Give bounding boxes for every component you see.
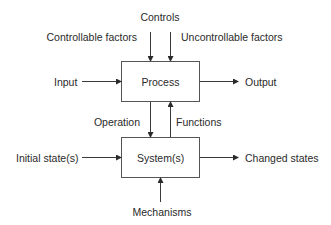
- operation-label: Operation: [94, 116, 140, 128]
- mechanisms-label: Mechanisms: [133, 206, 192, 218]
- output-label: Output: [245, 76, 277, 88]
- input-label: Input: [54, 76, 77, 88]
- controls-label: Controls: [140, 11, 179, 23]
- system-label: System(s): [137, 152, 184, 164]
- process-label: Process: [142, 76, 180, 88]
- controllable-factors-label: Controllable factors: [47, 31, 137, 43]
- process-system-diagram: Controls Controllable factors Uncontroll…: [0, 0, 331, 225]
- uncontrollable-factors-label: Uncontrollable factors: [181, 31, 283, 43]
- functions-label: Functions: [176, 116, 222, 128]
- initial-states-label: Initial state(s): [16, 152, 78, 164]
- changed-states-label: Changed states: [245, 152, 319, 164]
